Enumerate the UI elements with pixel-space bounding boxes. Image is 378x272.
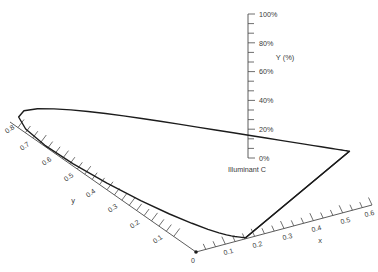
x-tick-minor <box>272 226 275 232</box>
illuminant-c-label: Illuminant C <box>228 165 266 174</box>
y-tick-label: 0.5 <box>63 171 75 182</box>
x-tick-minor <box>360 202 363 208</box>
y-axis-line <box>10 122 196 252</box>
Y-axis-title: Y (%) <box>276 53 295 62</box>
Y-tick-label: 100% <box>259 10 278 19</box>
x-tick-minor <box>301 218 304 224</box>
y-axis-group: 0.1 0.2 0.3 0.4 0.5 0.6 0.7 0.8 y <box>4 120 196 253</box>
chart-canvas: 0.1 0.2 0.3 0.4 0.5 0.6 0.7 0.8 y <box>0 0 378 272</box>
x-tick-minor <box>262 228 265 234</box>
y-tick-minor <box>137 204 142 211</box>
y-tick-label: 0.4 <box>85 187 97 198</box>
x-tick-minor <box>321 213 324 219</box>
y-tick-minor <box>166 225 171 232</box>
origin-dot <box>194 250 198 254</box>
x-axis-group: 0.1 0.2 0.3 0.4 0.5 0.6 x <box>196 198 375 257</box>
x-axis-tick-labels: 0.1 0.2 0.3 0.4 0.5 0.6 <box>223 209 375 256</box>
x-tick-minor <box>203 244 206 250</box>
Y-tick-label: 80% <box>259 39 274 48</box>
x-tick-label: 0.1 <box>223 247 234 256</box>
y-tick-minor <box>122 193 127 200</box>
chromaticity-diagram-figure: 0.1 0.2 0.3 0.4 0.5 0.6 0.7 0.8 y <box>0 0 378 272</box>
y-tick-label: 0.3 <box>107 202 119 213</box>
x-tick-minor <box>350 205 353 211</box>
x-tick-minor <box>330 210 333 216</box>
x-axis-title: x <box>318 236 322 245</box>
y-tick-major <box>129 197 135 205</box>
x-tick-major <box>222 237 226 245</box>
y-axis-tick-labels: 0.1 0.2 0.3 0.4 0.5 0.6 0.7 0.8 <box>4 123 164 244</box>
x-tick-label: 0.2 <box>252 240 263 249</box>
x-tick-major <box>339 205 343 213</box>
y-tick-major <box>152 213 158 221</box>
x-tick-label: 0.4 <box>311 224 322 233</box>
y-axis-title: y <box>71 196 75 205</box>
y-tick-minor <box>159 219 164 226</box>
y-tick-minor <box>144 209 149 216</box>
y-tick-label: 0.7 <box>19 140 31 151</box>
x-tick-label: 0.3 <box>282 232 293 241</box>
luminance-axis-group: 100% 80% 60% 40% 20% 0% Y (%) <box>248 10 295 163</box>
x-tick-label: 0.5 <box>340 216 351 225</box>
Y-tick-label: 60% <box>259 67 274 76</box>
origin-label: 0 <box>191 257 195 264</box>
x-tick-label: 0.6 <box>364 209 375 218</box>
Y-tick-label: 0% <box>259 154 270 163</box>
x-tick-major <box>369 198 373 206</box>
x-tick-major <box>310 213 314 221</box>
x-tick-major <box>281 221 285 229</box>
x-tick-minor <box>291 220 294 226</box>
Y-tick-label: 40% <box>259 96 274 105</box>
y-tick-major <box>174 228 180 236</box>
y-tick-label: 0.6 <box>41 155 53 166</box>
y-tick-label: 0.1 <box>152 233 164 244</box>
x-tick-minor <box>213 241 216 247</box>
Y-tick-label: 20% <box>259 125 274 134</box>
y-tick-label: 0.2 <box>129 218 141 229</box>
